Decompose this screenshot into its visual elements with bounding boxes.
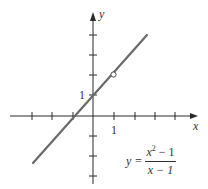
x-axis-label: x: [193, 120, 198, 132]
x-tick-label-1: 1: [111, 124, 117, 136]
y-tick-label-1: 1: [79, 89, 85, 101]
graph: [0, 0, 208, 189]
equation-annotation: y = x2 − 1 x − 1: [126, 144, 176, 178]
numerator-rest: − 1: [156, 145, 175, 159]
equation-lhs: y =: [126, 154, 142, 169]
y-axis-label: y: [99, 8, 104, 20]
equation-numerator: x2 − 1: [145, 144, 175, 162]
y-axis-arrow-icon: [90, 12, 96, 21]
equation-fraction: x2 − 1 x − 1: [145, 144, 175, 178]
hole-marker: [111, 72, 116, 77]
equation-denominator: x − 1: [148, 162, 173, 178]
